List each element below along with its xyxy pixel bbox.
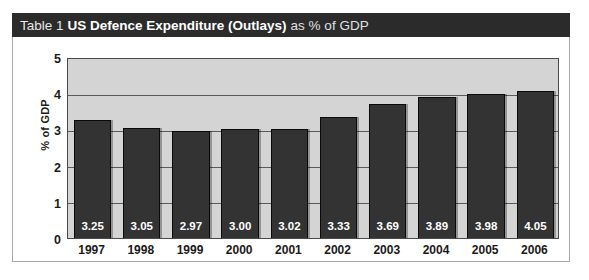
y-tick-label: 2 <box>54 161 61 175</box>
bar[interactable]: 2.97 <box>172 131 209 239</box>
bar[interactable]: 3.69 <box>369 104 406 238</box>
x-tick-label: 2004 <box>411 243 460 257</box>
y-tick-label: 4 <box>54 88 61 102</box>
y-tick-label: 3 <box>54 124 61 138</box>
bar-value-label: 3.25 <box>75 220 110 232</box>
y-tick-label: 5 <box>54 52 61 66</box>
chart-title-bar: Table 1 US Defence Expenditure (Outlays)… <box>12 13 570 37</box>
bar-slot: 3.02 <box>265 59 314 238</box>
bar-slot: 3.00 <box>216 59 265 238</box>
bar-slot: 3.69 <box>363 59 412 238</box>
title-emphasis: US Defence Expenditure (Outlays) <box>68 18 287 33</box>
bar-series: 3.253.052.973.003.023.333.693.893.984.05 <box>68 59 558 238</box>
bar[interactable]: 3.98 <box>467 94 504 238</box>
bar[interactable]: 3.00 <box>221 129 258 238</box>
bar-slot: 2.97 <box>166 59 215 238</box>
chart-figure: Table 1 US Defence Expenditure (Outlays)… <box>12 13 570 262</box>
y-tick-label: 1 <box>54 197 61 211</box>
bar-slot: 3.89 <box>412 59 461 238</box>
x-tick-label: 1998 <box>116 243 165 257</box>
bar[interactable]: 3.02 <box>271 129 308 238</box>
bar[interactable]: 3.25 <box>74 120 111 238</box>
x-axis-labels: 1997199819992000200120022003200420052006 <box>67 243 559 263</box>
bar-value-label: 4.05 <box>518 220 553 232</box>
x-tick-label: 2003 <box>362 243 411 257</box>
bar-value-label: 2.97 <box>173 220 208 232</box>
bar-value-label: 3.02 <box>272 220 307 232</box>
title-prefix: Table 1 <box>20 18 64 33</box>
y-tick-label: 0 <box>54 233 61 247</box>
bar-slot: 3.98 <box>462 59 511 238</box>
x-tick-label: 1997 <box>67 243 116 257</box>
x-tick-label: 2005 <box>461 243 510 257</box>
bar-value-label: 3.69 <box>370 220 405 232</box>
bar[interactable]: 3.05 <box>123 128 160 238</box>
bar-slot: 3.25 <box>68 59 117 238</box>
bar-value-label: 3.05 <box>124 220 159 232</box>
x-tick-label: 2000 <box>215 243 264 257</box>
x-tick-label: 2001 <box>264 243 313 257</box>
bar[interactable]: 4.05 <box>517 91 554 238</box>
x-tick-label: 1999 <box>165 243 214 257</box>
plot-area: 012345 3.253.052.973.003.023.333.693.893… <box>67 58 559 239</box>
bar-value-label: 3.89 <box>419 220 454 232</box>
chart-panel: % of GDP 012345 3.253.052.973.003.023.33… <box>12 37 570 262</box>
bar-slot: 3.05 <box>117 59 166 238</box>
x-tick-label: 2006 <box>510 243 559 257</box>
bar[interactable]: 3.33 <box>320 117 357 238</box>
bar-value-label: 3.00 <box>222 220 257 232</box>
bar[interactable]: 3.89 <box>418 97 455 238</box>
x-tick-label: 2002 <box>313 243 362 257</box>
bar-value-label: 3.33 <box>321 220 356 232</box>
title-suffix: as % of GDP <box>291 18 369 33</box>
bar-slot: 4.05 <box>511 59 560 238</box>
y-axis-title: % of GDP <box>39 85 51 165</box>
bar-value-label: 3.98 <box>468 220 503 232</box>
bar-slot: 3.33 <box>314 59 363 238</box>
